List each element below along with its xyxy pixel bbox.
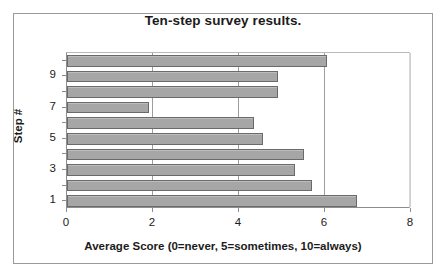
y-tick-1 [62, 200, 66, 201]
bar-step-10 [67, 55, 327, 67]
chart-figure: Ten-step survey results. 02468 13579 Ave… [0, 0, 446, 277]
y-tick-2 [62, 185, 66, 186]
bar-row [67, 86, 409, 98]
y-axis-label: Step # [12, 86, 24, 166]
bar-row [67, 149, 409, 161]
chart-title: Ten-step survey results. [0, 13, 446, 28]
y-tick-7 [62, 107, 66, 108]
y-tick-label-3: 3 [34, 162, 56, 174]
y-tick-label-1: 1 [34, 193, 56, 205]
bar-step-4 [67, 149, 304, 161]
y-tick-label-9: 9 [34, 68, 56, 80]
bar-step-1 [67, 195, 357, 207]
x-tick-0 [66, 208, 67, 212]
y-tick-10 [62, 60, 66, 61]
x-tick-4 [238, 208, 239, 212]
bar-row [67, 195, 409, 207]
y-tick-label-7: 7 [34, 100, 56, 112]
x-tick-label-2: 2 [137, 216, 167, 228]
x-tick-label-0: 0 [51, 216, 81, 228]
x-tick-label-8: 8 [395, 216, 425, 228]
y-tick-8 [62, 91, 66, 92]
bar-series [67, 53, 409, 207]
bar-step-7 [67, 102, 149, 114]
x-tick-label-6: 6 [309, 216, 339, 228]
y-tick-9 [62, 75, 66, 76]
bar-row [67, 133, 409, 145]
bar-row [67, 164, 409, 176]
y-tick-label-5: 5 [34, 131, 56, 143]
y-tick-4 [62, 153, 66, 154]
bar-step-3 [67, 164, 295, 176]
y-tick-3 [62, 169, 66, 170]
bar-row [67, 102, 409, 114]
x-axis-label: Average Score (0=never, 5=sometimes, 10=… [0, 240, 446, 252]
x-tick-6 [324, 208, 325, 212]
y-tick-6 [62, 122, 66, 123]
x-tick-label-4: 4 [223, 216, 253, 228]
plot-area [66, 52, 410, 208]
bar-row [67, 180, 409, 192]
bar-row [67, 55, 409, 67]
y-tick-5 [62, 138, 66, 139]
bar-step-6 [67, 117, 254, 129]
bar-step-2 [67, 180, 312, 192]
bar-row [67, 71, 409, 83]
x-tick-2 [152, 208, 153, 212]
gridline-x-8 [410, 53, 411, 207]
bar-step-8 [67, 86, 278, 98]
bar-step-5 [67, 133, 263, 145]
bar-row [67, 117, 409, 129]
x-tick-8 [410, 208, 411, 212]
bar-step-9 [67, 71, 278, 83]
